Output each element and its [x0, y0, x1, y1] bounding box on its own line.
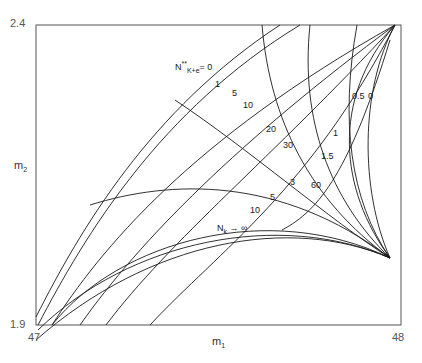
x-max-tick: 48 [392, 332, 404, 343]
upper-family-label: N**K+e= 0 [175, 60, 212, 74]
plot-frame [36, 25, 401, 325]
right-label-1: 1 [333, 129, 338, 138]
right-label-0: 0 [368, 92, 373, 101]
diagonal-curve-3 [175, 100, 390, 258]
upper-label-1: 1 [215, 80, 220, 89]
x-axis-label: m1 [212, 336, 225, 349]
lower-label-5: 5 [270, 193, 275, 202]
y-max-tick: 2.4 [10, 18, 25, 29]
y-min-tick: 1.9 [10, 319, 25, 330]
upper-curve-family [36, 25, 395, 325]
lower-curve-family [36, 189, 390, 340]
y-axis-label: m2 [14, 160, 27, 173]
x-min-tick: 47 [28, 332, 40, 343]
upper-label-10: 10 [243, 101, 253, 110]
upper-label-5: 5 [232, 89, 237, 98]
upper-label-60: 60 [311, 181, 321, 190]
lower-limit-label: Nk → ∞ [217, 224, 247, 235]
right-label-1-5: 1.5 [321, 152, 334, 161]
right-label-0-5: 0.5 [352, 92, 365, 101]
diagonal-label-3: 3 [290, 178, 295, 187]
lower-label-10: 10 [250, 206, 260, 215]
right-curve-family [262, 25, 395, 258]
upper-label-30: 30 [283, 141, 293, 150]
upper-label-20: 20 [266, 125, 276, 134]
plot-area [0, 0, 422, 363]
